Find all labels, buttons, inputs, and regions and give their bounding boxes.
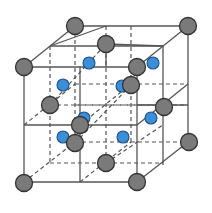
large-atom-back-bottom-right	[181, 134, 198, 151]
large-atom-right-face-center	[156, 99, 173, 116]
large-atom-front-bottom-right	[129, 174, 146, 191]
small-atom-tetra-2	[147, 57, 159, 69]
large-atom-back-top-left	[67, 18, 84, 35]
dashed-edge	[50, 44, 106, 105]
large-atom-front-bottom-left	[16, 175, 33, 192]
small-atom-tetra-8	[117, 131, 129, 143]
large-atom-left-face-center	[42, 97, 59, 114]
large-atom-front-top-right	[129, 59, 146, 76]
large-atom-front-top-left	[16, 59, 33, 76]
crystal-lattice-diagram	[0, 0, 212, 213]
large-atom-top-face-center	[98, 36, 115, 53]
large-atom-bottom-hidden	[67, 135, 84, 152]
small-atom-tetra-1	[83, 57, 95, 69]
small-atom-tetra-3	[57, 79, 69, 91]
dashed-edge	[106, 125, 163, 163]
large-atom-back-face-center	[123, 77, 140, 94]
large-atom-bottom-face-center	[98, 155, 115, 172]
large-atom-back-top-right	[180, 18, 197, 35]
large-atom-front-face-center	[72, 117, 89, 134]
small-atom-tetra-6	[145, 112, 157, 124]
